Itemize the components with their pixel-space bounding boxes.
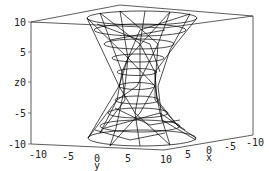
x-tick-neg5: -5: [224, 141, 236, 152]
z-tick-neg10: -10: [8, 139, 26, 150]
y-tick-neg5: -5: [62, 151, 74, 162]
z-tick-10: 10: [14, 17, 26, 28]
bounding-box: [31, 5, 253, 150]
z-tick-neg5: -5: [14, 108, 26, 119]
plot-3d: 10 5 z0 -5 -10 -10 -5 0 y 5 10 5 0 x -5 …: [0, 0, 269, 171]
z-axis-label: z0: [14, 77, 26, 88]
x-tick-5: 5: [185, 149, 191, 160]
x-tick-neg10: -10: [246, 137, 264, 148]
x-tick-10: 10: [160, 154, 172, 165]
y-tick-5: 5: [125, 153, 131, 164]
hyperboloid-surface: [87, 11, 197, 146]
z-axis-ticks: [28, 22, 31, 144]
y-tick-neg10: -10: [29, 149, 47, 160]
z-tick-5: 5: [20, 47, 26, 58]
x-axis-label: x: [206, 152, 212, 163]
y-axis-label: y: [94, 160, 100, 171]
